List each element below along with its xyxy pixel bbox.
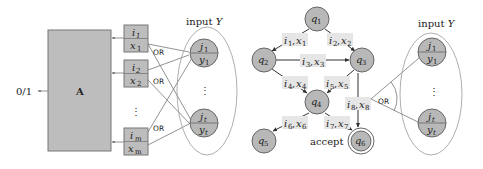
svg-text:i: i	[326, 118, 329, 129]
state-q4: q4	[305, 90, 329, 114]
svg-text:2: 2	[347, 40, 351, 48]
svg-text:t: t	[433, 129, 436, 137]
svg-text:i: i	[132, 27, 135, 38]
svg-text:i: i	[347, 99, 350, 110]
svg-text:6: 6	[361, 140, 366, 148]
edge-label-5: i5 , x5	[324, 76, 350, 91]
svg-text:m: m	[135, 148, 142, 156]
svg-text:1: 1	[317, 18, 321, 26]
svg-text:1: 1	[302, 40, 306, 48]
svg-text:y: y	[426, 124, 433, 135]
svg-text:2: 2	[264, 59, 268, 67]
edge-label-1: i1 , x1	[282, 33, 308, 48]
svg-text:5: 5	[344, 83, 348, 91]
input-ellipsis: ⋮	[200, 85, 210, 96]
svg-text:y: y	[426, 53, 433, 64]
svg-text:3: 3	[320, 61, 324, 69]
or-connection-lines-right	[371, 58, 419, 122]
svg-text:x: x	[130, 40, 136, 51]
input-node-t: j t y t	[190, 109, 218, 137]
diagram-canvas: A 0/1 OR OR OR i 1 x 1	[0, 0, 483, 169]
state-q6-accept: q6	[348, 128, 374, 154]
svg-text:y: y	[198, 54, 205, 65]
svg-text:i: i	[284, 78, 287, 89]
svg-text:x: x	[130, 75, 136, 86]
svg-text:t: t	[205, 129, 208, 137]
svg-text:4: 4	[302, 83, 307, 91]
svg-text:i: i	[130, 130, 133, 141]
input-y-label-right: input Y	[418, 18, 456, 29]
accept-label: accept	[310, 136, 344, 147]
query-box-m: i m x m	[124, 128, 148, 156]
state-q3: q3	[350, 48, 374, 72]
query-ellipsis: ⋮	[131, 106, 141, 117]
svg-text:i: i	[132, 62, 135, 73]
right-diagram: OR i1 , x1 i2 , x2 i3 , x3 i4 , x4 i	[252, 7, 462, 155]
or-label-m: OR	[153, 124, 164, 133]
or-label-2: OR	[153, 77, 164, 86]
svg-text:1: 1	[432, 45, 436, 53]
svg-text:t: t	[432, 116, 435, 124]
input-node-t-right: j t y t	[418, 109, 446, 137]
svg-text:y: y	[198, 124, 205, 135]
edge-label-6: i6 , x6	[282, 116, 308, 131]
state-q2: q2	[252, 48, 276, 72]
svg-text:1: 1	[205, 59, 209, 67]
input-y-label: input Y	[186, 16, 224, 27]
svg-text:i: i	[284, 35, 287, 46]
left-diagram: A 0/1 OR OR OR i 1 x 1	[16, 16, 237, 156]
svg-text:6: 6	[302, 123, 307, 131]
input-node-1-right: j 1 y 1	[418, 38, 446, 66]
svg-text:i: i	[326, 78, 329, 89]
svg-text:,: ,	[292, 118, 295, 129]
query-box-1: i 1 x 1	[124, 25, 148, 53]
svg-text:i: i	[284, 118, 287, 129]
state-q5: q5	[252, 129, 276, 153]
svg-text:1: 1	[136, 32, 140, 40]
svg-text:8: 8	[365, 104, 369, 112]
input-ellipsis-right: ⋮	[429, 86, 439, 97]
edge-label-2: i2 , x2	[327, 33, 353, 48]
edge-label-7: i7 , x7	[324, 116, 350, 131]
input-node-1: j 1 y 1	[190, 39, 218, 67]
svg-text:4: 4	[317, 101, 322, 109]
output-label: 0/1	[16, 86, 32, 97]
svg-text:7: 7	[344, 123, 348, 131]
svg-text:,: ,	[337, 35, 340, 46]
svg-text:3: 3	[362, 59, 366, 67]
or-label-right: OR	[378, 97, 389, 106]
or-label-1: OR	[153, 48, 164, 57]
svg-text:5: 5	[264, 140, 268, 148]
edge-label-3: i3 , x3	[300, 54, 326, 69]
svg-text:1: 1	[433, 58, 437, 66]
query-box-2: i 2 x 2	[124, 60, 148, 88]
machine-label: A	[75, 86, 84, 97]
edge-label-8: i8 , x8	[345, 97, 371, 112]
svg-text:i: i	[302, 56, 305, 67]
svg-text:,: ,	[292, 35, 295, 46]
svg-text:,: ,	[334, 118, 337, 129]
svg-text:x: x	[128, 143, 134, 154]
edge-label-4: i4 , x4	[282, 76, 308, 91]
svg-text:1: 1	[137, 45, 141, 53]
svg-text:2: 2	[137, 80, 141, 88]
svg-text:,: ,	[355, 99, 358, 110]
svg-text:,: ,	[310, 56, 313, 67]
svg-text:t: t	[204, 116, 207, 124]
svg-text:,: ,	[334, 78, 337, 89]
svg-text:2: 2	[135, 67, 141, 75]
svg-text:i: i	[329, 35, 332, 46]
state-q1: q1	[305, 7, 329, 31]
svg-text:1: 1	[204, 46, 208, 54]
svg-text:m: m	[135, 135, 142, 143]
svg-text:,: ,	[292, 78, 295, 89]
